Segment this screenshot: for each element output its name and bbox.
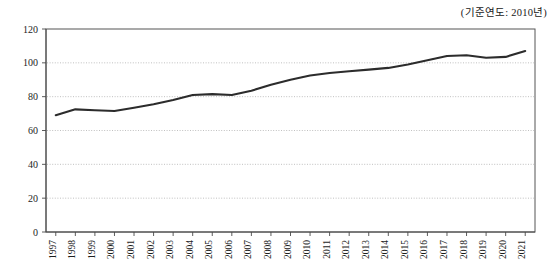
x-axis-tick-label: 2006	[224, 240, 234, 259]
chart-canvas: 020406080100120 199719981999200020012002…	[0, 0, 559, 277]
x-axis-tick-label: 1999	[87, 240, 97, 259]
y-axis-tick-label: 120	[23, 24, 38, 35]
y-axis-tick-label: 20	[28, 193, 38, 204]
x-axis-tick-label: 2017	[439, 240, 449, 259]
x-axis-tick-label: 2020	[498, 240, 508, 259]
x-axis-tick-label: 2009	[283, 240, 293, 259]
x-axis-tick-label: 2010	[302, 240, 312, 259]
x-axis-tick-label: 2013	[361, 240, 371, 259]
y-axis-tick-label: 40	[28, 159, 38, 170]
x-axis-tick-label: 2007	[243, 240, 253, 259]
x-axis-tick-label: 1997	[48, 240, 58, 259]
x-axis-tick-label: 2011	[322, 240, 332, 259]
y-axis-tick-label: 80	[28, 91, 38, 102]
x-axis-tick-label: 2002	[146, 240, 156, 259]
x-axis-tick-label: 2021	[517, 240, 527, 259]
y-axis-tick-label: 60	[28, 125, 38, 136]
x-axis-tick-label: 1998	[67, 240, 77, 259]
y-axis-tick-label: 0	[33, 227, 38, 238]
x-axis-ticks	[56, 232, 525, 236]
plot-area-border	[46, 29, 535, 232]
y-axis-ticks	[42, 29, 46, 232]
y-axis-labels: 020406080100120	[23, 24, 38, 238]
x-axis-tick-label: 2008	[263, 240, 273, 259]
x-axis-tick-label: 2001	[126, 240, 136, 259]
x-axis-tick-label: 2003	[165, 240, 175, 259]
x-axis-tick-label: 2016	[419, 240, 429, 259]
x-axis-tick-label: 2018	[459, 240, 469, 259]
x-axis-tick-label: 2019	[478, 240, 488, 259]
x-axis-tick-label: 2014	[380, 240, 390, 259]
x-axis-tick-label: 2000	[106, 240, 116, 259]
index-line-chart: (기준연도: 2010년) 020406080100120 1997199819…	[0, 0, 559, 277]
x-axis-tick-label: 2004	[185, 240, 195, 259]
x-axis-tick-label: 2015	[400, 240, 410, 259]
y-axis-tick-label: 100	[23, 57, 38, 68]
x-axis-labels: 1997199819992000200120022003200420052006…	[48, 240, 527, 259]
x-axis-tick-label: 2012	[341, 240, 351, 259]
x-axis-tick-label: 2005	[204, 240, 214, 259]
